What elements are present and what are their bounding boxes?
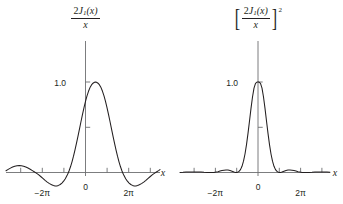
x-axis-label: x [160, 167, 166, 178]
y-tick-label-1.0: 1.0 [54, 78, 66, 88]
curve-intensity [180, 82, 330, 173]
plot-svg-amplitude: 1.0 0 −2π 2π x [0, 0, 171, 204]
x-tick-label-0: 0 [256, 182, 261, 192]
x-tick-label-2pi: 2π [123, 188, 134, 198]
airy-function-figure: 2J1(x) x 1.0 0 −2π 2π [0, 0, 343, 204]
plot-panel-intensity: [ 2J1(x) x ]2 1.0 0 −2π [172, 0, 343, 204]
y-tick-label-1.0: 1.0 [226, 78, 238, 88]
plot-panel-amplitude: 2J1(x) x 1.0 0 −2π 2π [0, 0, 171, 204]
x-tick-label--2pi: −2π [208, 188, 224, 198]
x-tick-label-0: 0 [83, 182, 88, 192]
x-tick-label--2pi: −2π [35, 188, 51, 198]
plot-svg-intensity: 1.0 0 −2π 2π x [172, 0, 343, 204]
x-axis-label: x [332, 167, 338, 178]
x-tick-label-2pi: 2π [295, 188, 306, 198]
curve-amplitude [6, 82, 160, 186]
